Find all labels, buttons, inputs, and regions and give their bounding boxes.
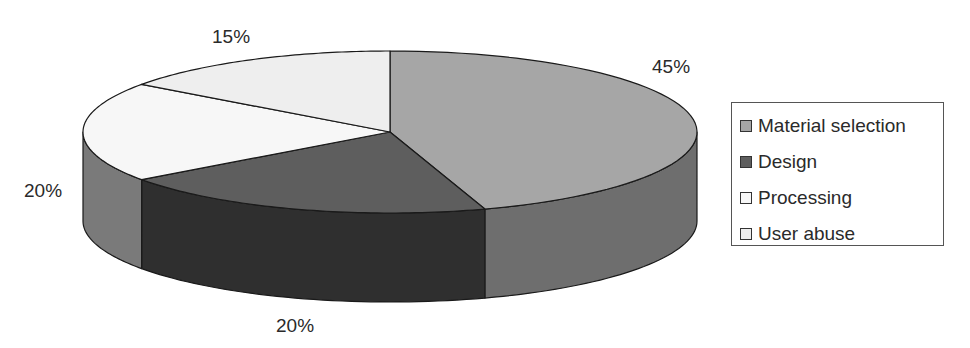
legend-item-user-abuse: User abuse [732,216,943,252]
legend-item-material-selection: Material selection [732,108,943,144]
legend-item-processing: Processing [732,180,943,216]
legend-item-design: Design [732,144,943,180]
label-user-abuse: 15% [212,26,250,48]
legend-label: Design [758,151,817,173]
label-processing: 20% [24,180,62,202]
legend-label: User abuse [758,223,855,245]
label-design: 20% [276,315,314,337]
legend-label: Processing [758,187,852,209]
pie-tops [83,51,697,213]
legend-swatch-material-selection [740,120,752,132]
legend-swatch-design [740,156,752,168]
pie-chart [0,0,720,348]
label-material-selection: 45% [652,56,690,78]
legend-swatch-user-abuse [740,228,752,240]
legend: Material selection Design Processing Use… [731,102,944,246]
legend-label: Material selection [758,115,906,137]
legend-swatch-processing [740,192,752,204]
